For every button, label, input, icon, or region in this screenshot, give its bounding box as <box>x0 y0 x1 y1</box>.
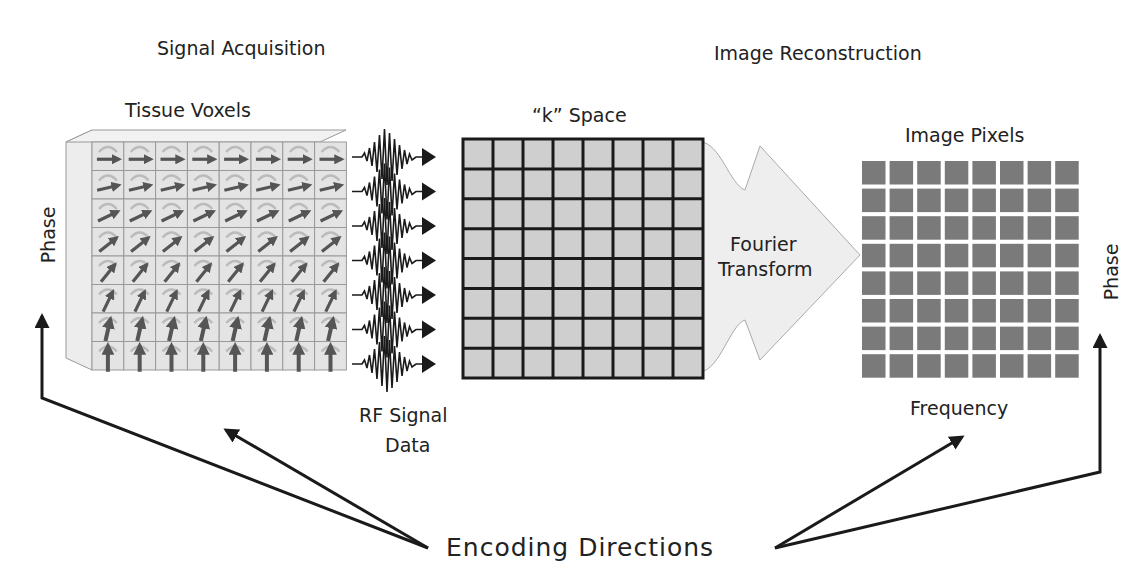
fourier-label-2: Transform <box>718 258 813 280</box>
phase-label-left: Phase <box>37 207 59 264</box>
k-space-grid <box>463 139 703 378</box>
phase-label-right: Phase <box>1100 244 1122 301</box>
image-pixel-grid <box>862 161 1079 378</box>
fourier-transform-arrow <box>700 142 860 372</box>
fourier-label-1: Fourier <box>730 233 797 255</box>
rf-signal-label-2: Data <box>385 434 430 456</box>
voxel-block <box>66 130 346 372</box>
rf-signal-label-1: RF Signal <box>359 404 448 426</box>
encoding-directions-label: Encoding Directions <box>446 533 714 562</box>
frequency-label: Frequency <box>910 397 1008 419</box>
rf-signal-waves <box>352 129 436 392</box>
mri-diagram-graphics <box>0 0 1142 586</box>
